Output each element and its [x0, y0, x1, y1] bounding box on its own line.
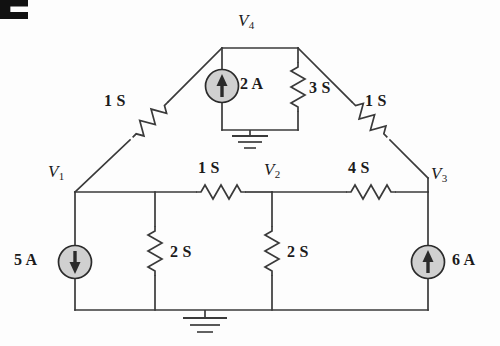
- node-label-v2: V2: [264, 161, 280, 180]
- resistor-1s-left-diagonal-symbol: [128, 97, 173, 142]
- node-label-v1: V1: [48, 163, 64, 182]
- current-source-5a-symbol: [59, 246, 92, 279]
- circuit-diagram-figure: V1 V2 V3 V4 1 S 1 S 3 S 1 S 4 S 2 S 2 S …: [0, 0, 500, 346]
- ground-symbols: [183, 130, 268, 332]
- resistor-label-1s-right-diagonal: 1 S: [365, 93, 387, 109]
- resistor-label-4s-middle: 4 S: [348, 160, 370, 176]
- source-label-5a: 5 A: [14, 252, 37, 268]
- resistor-label-3s: 3 S: [309, 80, 331, 96]
- circuit-schematic-svg: [0, 0, 500, 346]
- resistor-1s-middle-symbol: [196, 185, 246, 199]
- source-label-6a: 6 A: [452, 252, 475, 268]
- ground-symbol-bottom-shape: [183, 310, 227, 332]
- node-label-v4: V4: [238, 12, 254, 31]
- resistor-label-1s-middle: 1 S: [198, 160, 220, 176]
- ground-symbol-top-shape: [232, 130, 268, 148]
- node-label-v3: V3: [431, 165, 447, 184]
- resistor-label-1s-left-diagonal: 1 S: [104, 93, 126, 109]
- source-label-2a: 2 A: [240, 76, 263, 92]
- current-source-2a-symbol: [206, 70, 239, 103]
- resistor-2s-right-symbol: [265, 226, 279, 276]
- resistor-3s-symbol: [291, 62, 305, 112]
- wire-v1-diagonal-lower: [75, 140, 130, 192]
- resistor-2s-left-symbol: [148, 226, 162, 276]
- wire-v3-diagonal-lower: [390, 140, 428, 178]
- resistor-label-2s-left: 2 S: [170, 244, 192, 260]
- resistor-4s-middle-symbol: [346, 185, 396, 199]
- current-source-6a-symbol: [412, 246, 445, 279]
- resistor-label-2s-right: 2 S: [287, 244, 309, 260]
